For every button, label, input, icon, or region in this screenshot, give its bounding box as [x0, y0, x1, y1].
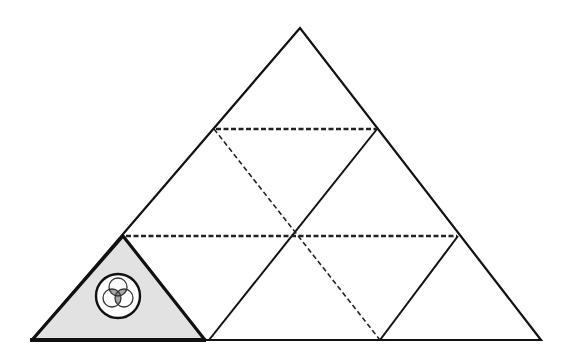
diagram-canvas [0, 0, 571, 363]
dashed-line-diagonal [214, 129, 380, 340]
solid-line-inner-right [380, 236, 458, 340]
triangle-net-diagram [0, 0, 571, 363]
solid-line-inner-left [209, 129, 377, 340]
three-circles-emblem-icon [96, 274, 140, 318]
